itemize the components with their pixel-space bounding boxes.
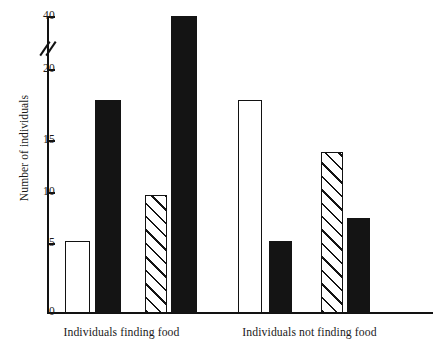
y-tick-label-15: 15: [29, 134, 55, 146]
y-tick-0: 0: [0, 306, 55, 318]
bar-chart-figure: 40 20 15 10 5 0 Number of individuals In…: [0, 0, 442, 348]
y-tick-label-10: 10: [29, 186, 55, 198]
y-tick-label-20: 20: [29, 63, 55, 75]
bar-group1-open-6: [65, 241, 90, 313]
bar-group2-solid-6: [269, 241, 292, 313]
y-tick-label-0: 0: [29, 306, 55, 318]
y-axis-break-icon: [39, 38, 59, 62]
y-tick-label-5: 5: [29, 237, 55, 249]
y-tick-5: 5: [0, 237, 55, 249]
x-group-label-not-finding-food: Individuals not finding food: [232, 326, 387, 340]
bar-group1-solid-40: [171, 16, 197, 313]
y-axis-title: Number of individuals: [18, 68, 30, 228]
x-group-label-finding-food: Individuals finding food: [54, 326, 189, 340]
y-tick-label-40: 40: [29, 10, 55, 22]
bar-group1-solid-18: [95, 100, 121, 313]
bar-group1-hatched-10: [145, 195, 167, 313]
y-tick-40: 40: [0, 10, 55, 22]
bar-group2-solid-8: [347, 218, 370, 313]
bar-group2-open-18: [238, 100, 262, 313]
bar-group2-hatched-14: [321, 152, 343, 313]
